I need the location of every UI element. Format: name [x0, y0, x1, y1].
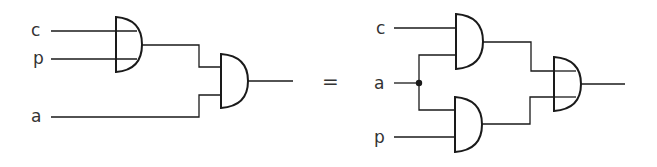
gate-r3-icon	[554, 57, 581, 111]
wire-a-down	[419, 83, 455, 110]
input-label-p: p	[33, 48, 44, 68]
gate-l1-icon	[116, 17, 142, 72]
input-label-p: p	[374, 127, 385, 147]
gate-l2-icon	[221, 54, 248, 108]
wire-a-up	[419, 55, 456, 83]
gate-r1-icon	[456, 14, 483, 69]
wire-l1-out	[142, 45, 221, 67]
input-label-a: a	[374, 73, 384, 93]
circuit-diagram: c p a = c a p	[0, 0, 657, 167]
junction-dot-icon	[416, 80, 422, 86]
input-label-c: c	[376, 18, 385, 38]
wire-a	[51, 95, 221, 117]
wire-r1-out	[483, 42, 554, 71]
wire-r2-out	[482, 97, 554, 124]
left-circuit: c p a	[31, 17, 293, 126]
input-label-c: c	[31, 20, 40, 40]
input-label-a: a	[31, 106, 41, 126]
gate-r2-icon	[455, 97, 482, 152]
equals-sign: =	[322, 69, 339, 93]
right-circuit: c a p	[374, 14, 625, 152]
